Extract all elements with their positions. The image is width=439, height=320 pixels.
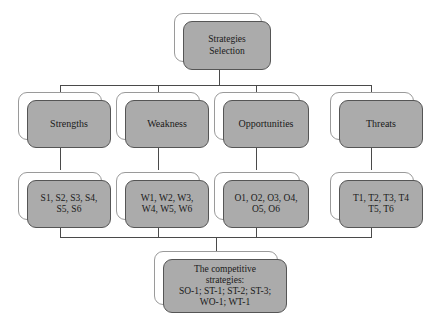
node-label: Strengths: [28, 118, 110, 130]
connector-threats-items: [371, 148, 372, 170]
node-threats[interactable]: Threats: [330, 92, 414, 140]
node-label: S1, S2, S3, S4, S5, S6: [28, 193, 110, 215]
node-face-card: O1, O2, O3, O4, O5, O6: [223, 180, 309, 228]
connector-opportunities-items: [256, 148, 257, 170]
node-face-card: W1, W2, W3, W4, W5, W6: [125, 180, 209, 228]
node-weakness[interactable]: Weakness: [116, 92, 200, 140]
node-strengths[interactable]: Strengths: [18, 92, 102, 140]
connector-opportunities-items-down: [256, 228, 257, 237]
node-face-card: Threats: [339, 100, 423, 148]
connector-strengths-items-down: [60, 228, 61, 237]
node-label: W1, W2, W3, W4, W5, W6: [126, 193, 208, 215]
node-label: The competitive strategies: SO-1; ST-1; …: [164, 264, 286, 309]
node-threats-items[interactable]: T1, T2, T3, T4 T5, T6: [330, 172, 414, 220]
node-strengths-items[interactable]: S1, S2, S3, S4, S5, S6: [18, 172, 102, 220]
node-competitive-strategies[interactable]: The competitive strategies: SO-1; ST-1; …: [154, 251, 278, 305]
connector-threats-items-down: [371, 228, 372, 237]
node-face-card: Strategies Selection: [183, 21, 271, 70]
node-label: Threats: [340, 118, 422, 130]
connector-weakness-items: [158, 148, 159, 170]
connector-category-bus: [60, 85, 372, 86]
node-face-card: Weakness: [125, 100, 209, 148]
node-face-card: Strengths: [27, 100, 111, 148]
connector-title-down: [219, 70, 220, 86]
node-face-card: T1, T2, T3, T4 T5, T6: [339, 180, 423, 228]
node-label: T1, T2, T3, T4 T5, T6: [340, 193, 422, 215]
node-label: Opportunities: [224, 118, 308, 130]
node-face-card: The competitive strategies: SO-1; ST-1; …: [163, 259, 287, 313]
node-opportunities[interactable]: Opportunities: [214, 92, 300, 140]
swot-strategy-flowchart: Strategies Selection Strengths Weakness …: [0, 0, 439, 320]
node-face-card: Opportunities: [223, 100, 309, 148]
node-face-card: S1, S2, S3, S4, S5, S6: [27, 180, 111, 228]
connector-result-down: [216, 237, 217, 251]
node-label: Weakness: [126, 118, 208, 130]
connector-weakness-items-down: [158, 228, 159, 237]
node-strategies-selection[interactable]: Strategies Selection: [174, 13, 262, 62]
connector-strengths-items: [60, 148, 61, 170]
node-label: Strategies Selection: [184, 34, 270, 56]
node-label: O1, O2, O3, O4, O5, O6: [224, 193, 308, 215]
node-opportunities-items[interactable]: O1, O2, O3, O4, O5, O6: [214, 172, 300, 220]
node-weakness-items[interactable]: W1, W2, W3, W4, W5, W6: [116, 172, 200, 220]
